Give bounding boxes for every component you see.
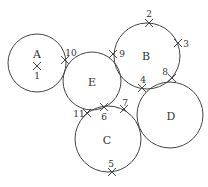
point-label: 11 [73, 109, 84, 119]
point-5: 5 [108, 159, 116, 176]
point-label: 1 [34, 71, 40, 81]
circle-label: D [167, 110, 176, 123]
point-label: 10 [65, 48, 77, 58]
point-label: 3 [183, 39, 189, 49]
point-label: 4 [140, 75, 146, 85]
point-4: 4 [138, 75, 146, 92]
point-label: 8 [162, 67, 168, 77]
circle-label: A [32, 48, 42, 61]
circle-label: B [142, 50, 150, 63]
point-label: 5 [108, 159, 114, 169]
point-label: 6 [101, 112, 107, 122]
point-label: 7 [122, 98, 128, 108]
point-9: 9 [109, 49, 125, 59]
point-1: 1 [33, 62, 41, 81]
circle-label: C [103, 134, 111, 147]
circle-e: E [63, 52, 121, 110]
point-2: 2 [145, 9, 153, 27]
point-7: 7 [120, 98, 128, 113]
circles: ABCDE [8, 23, 203, 172]
circle-a: A [8, 34, 66, 92]
circle-outline [8, 34, 66, 92]
point-label: 2 [146, 9, 152, 19]
circle-label: E [88, 76, 96, 89]
point-label: 9 [119, 49, 125, 59]
circle-d: D [137, 82, 203, 148]
point-11: 11 [73, 109, 91, 119]
points: 1234567891011 [33, 9, 189, 176]
circle-network-diagram: ABCDE 1234567891011 [0, 0, 208, 187]
